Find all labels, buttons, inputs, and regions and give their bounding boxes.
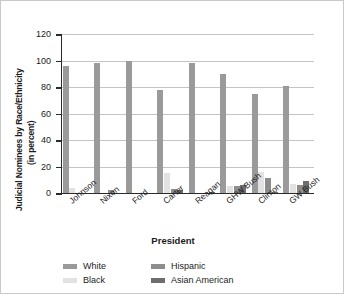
bar-group: [188, 34, 220, 193]
plot-area: [61, 34, 314, 193]
y-axis-tick-label: 120: [21, 29, 51, 39]
bar-group: [251, 34, 283, 193]
legend-item-black: Black: [63, 275, 151, 285]
bar: [157, 90, 163, 193]
legend-item-white: White: [63, 261, 151, 271]
y-axis-tick-label: 40: [21, 135, 51, 145]
legend-label-hispanic: Hispanic: [171, 261, 206, 271]
legend-swatch-white-icon: [63, 264, 77, 269]
legend-label-asian-american: Asian American: [171, 275, 234, 285]
legend-row: Black Asian American: [63, 273, 293, 287]
legend-swatch-asian-american-icon: [151, 278, 165, 283]
legend-swatch-hispanic-icon: [151, 264, 165, 269]
chart-legend: White Hispanic Black Asian American: [63, 259, 293, 287]
legend-item-asian-american: Asian American: [151, 275, 234, 285]
bar: [63, 66, 69, 193]
legend-row: White Hispanic: [63, 259, 293, 273]
legend-swatch-black-icon: [63, 278, 77, 283]
bar-group: [220, 34, 252, 193]
bar-group: [62, 34, 94, 193]
y-axis-tick-label: 0: [21, 188, 51, 198]
bar: [189, 63, 195, 193]
chart-figure: Judicial Nominees by Race/Ethnicity (in …: [0, 0, 344, 294]
bar: [220, 74, 226, 193]
bar-group: [283, 34, 315, 193]
bar: [94, 63, 100, 193]
bar-group: [94, 34, 126, 193]
y-axis-tick-label: 60: [21, 109, 51, 119]
x-axis-title: President: [1, 235, 345, 246]
bar-group: [157, 34, 189, 193]
y-axis-tick-label: 100: [21, 56, 51, 66]
legend-label-black: Black: [83, 275, 105, 285]
bar: [283, 86, 289, 193]
y-axis-tick-label: 20: [21, 162, 51, 172]
y-axis-tick-label: 80: [21, 82, 51, 92]
legend-item-hispanic: Hispanic: [151, 261, 206, 271]
bar-group: [125, 34, 157, 193]
bar: [126, 61, 132, 194]
legend-label-white: White: [83, 261, 106, 271]
